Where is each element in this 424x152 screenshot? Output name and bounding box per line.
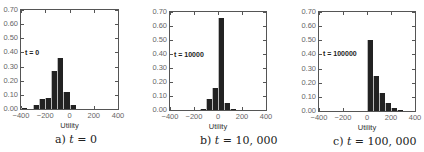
histogram-panel-c: 0.000.100.200.300.400.500.600.70−400−200…	[0, 0, 424, 152]
y-tick-mark	[412, 97, 415, 98]
x-tick-mark	[319, 108, 320, 111]
time-annotation: t = 100000	[323, 50, 357, 57]
y-tick-mark	[412, 40, 415, 41]
x-tick-label: 400	[403, 114, 424, 122]
y-tick-mark	[412, 54, 415, 55]
x-tick-mark	[343, 108, 344, 111]
y-tick-label: 0.60	[298, 22, 316, 30]
plot-area	[318, 11, 416, 112]
y-tick-label: 0.70	[298, 8, 316, 16]
x-tick-mark	[415, 108, 416, 111]
x-tick-mark	[391, 12, 392, 15]
y-tick-mark	[412, 26, 415, 27]
x-tick-mark	[415, 12, 416, 15]
y-tick-label: 0.20	[298, 79, 316, 87]
y-tick-mark	[319, 111, 322, 112]
y-tick-mark	[319, 69, 322, 70]
x-tick-label: 200	[379, 114, 403, 122]
y-tick-label: 0.50	[298, 36, 316, 44]
figure-caption: c) t = 100, 000	[333, 135, 417, 148]
y-tick-label: 0.10	[298, 93, 316, 101]
y-tick-label: 0.40	[298, 50, 316, 58]
x-tick-mark	[367, 12, 368, 15]
y-tick-mark	[319, 26, 322, 27]
y-tick-mark	[412, 83, 415, 84]
x-tick-mark	[319, 12, 320, 15]
x-tick-mark	[343, 12, 344, 15]
y-tick-mark	[412, 111, 415, 112]
y-tick-mark	[319, 83, 322, 84]
x-axis-label: Utility	[347, 123, 387, 132]
y-tick-mark	[319, 40, 322, 41]
y-tick-mark	[319, 97, 322, 98]
x-tick-label: 0	[355, 114, 379, 122]
caption-value: = 100, 000	[351, 135, 416, 148]
y-tick-mark	[319, 54, 322, 55]
x-tick-label: −200	[331, 114, 355, 122]
histogram-bar	[397, 110, 403, 111]
y-tick-mark	[412, 69, 415, 70]
x-tick-label: −400	[307, 114, 331, 122]
y-tick-label: 0.30	[298, 65, 316, 73]
caption-prefix: c)	[333, 135, 347, 148]
